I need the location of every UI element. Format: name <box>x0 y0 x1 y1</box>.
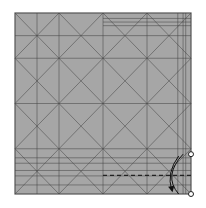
reference-point-top-icon <box>189 152 194 157</box>
crease-pattern <box>0 0 206 208</box>
reference-point-bottom-icon <box>189 192 194 197</box>
